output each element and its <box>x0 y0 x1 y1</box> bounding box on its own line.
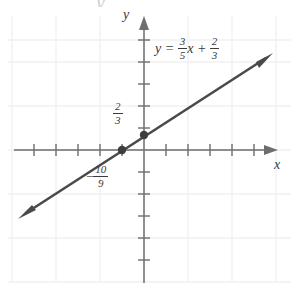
y-axis-arrowhead <box>139 16 149 30</box>
y-intercept-fraction: 2 3 <box>113 101 123 126</box>
equation-annotation: y = 3 5 x + 2 3 <box>155 36 219 61</box>
x-intercept-fraction: 10 9 <box>93 164 108 189</box>
equation-plus-sign: + <box>197 41 206 56</box>
equation-slope-denominator: 5 <box>178 49 188 61</box>
axis-label-y: y <box>123 8 129 22</box>
y-intercept-label: 2 3 <box>113 101 123 126</box>
equation-lhs: y <box>155 41 161 56</box>
equation-intercept-fraction: 2 3 <box>210 36 220 61</box>
x-intercept-marker <box>118 146 126 154</box>
coordinate-plane <box>0 0 295 287</box>
x-intercept-label: − 10 9 <box>86 164 108 189</box>
y-intercept-denominator: 3 <box>113 114 123 126</box>
equation-variable: x <box>187 41 193 56</box>
equation-slope-fraction: 3 5 <box>178 36 188 61</box>
equation-intercept-numerator: 2 <box>210 36 220 49</box>
y-intercept-numerator: 2 <box>113 101 123 114</box>
x-intercept-minus-sign: − <box>86 169 93 184</box>
equation-equals: = <box>165 41 174 56</box>
x-intercept-numerator: 10 <box>93 164 108 177</box>
x-intercept-denominator: 9 <box>93 177 108 189</box>
line-arrowhead-upper-right <box>256 53 273 68</box>
graph-figure: y y <box>0 0 295 287</box>
axis-label-x: x <box>274 158 280 172</box>
equation-slope-numerator: 3 <box>178 36 188 49</box>
y-intercept-marker <box>140 131 148 139</box>
line-arrowhead-lower-left <box>18 205 36 219</box>
equation-intercept-denominator: 3 <box>210 49 220 61</box>
